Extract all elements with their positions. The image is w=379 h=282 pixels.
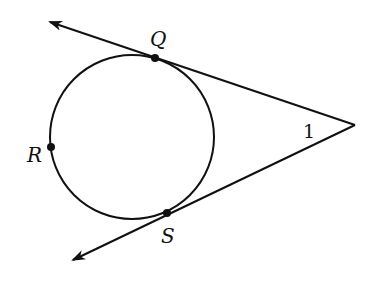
point-S bbox=[163, 209, 171, 217]
geometry-diagram: QRS 1 bbox=[0, 0, 379, 282]
point-label-R: R bbox=[26, 143, 42, 167]
point-label-Q: Q bbox=[150, 27, 166, 51]
tangent-ray-Q bbox=[50, 22, 355, 125]
diagram-canvas: QRS 1 bbox=[0, 0, 379, 282]
point-label-S: S bbox=[161, 224, 175, 248]
circle bbox=[50, 55, 214, 219]
point-R bbox=[47, 143, 55, 151]
point-Q bbox=[151, 54, 159, 62]
angle-label-1: 1 bbox=[303, 120, 315, 142]
points-group: QRS bbox=[26, 27, 175, 248]
